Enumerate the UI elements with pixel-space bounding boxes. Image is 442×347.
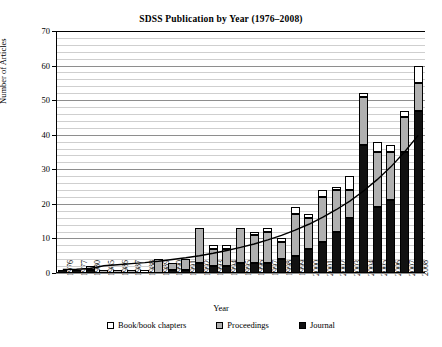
legend-label: Journal (310, 320, 335, 330)
gridline-major (56, 273, 425, 274)
legend-item: Journal (299, 320, 335, 330)
y-tick-label: 30 (24, 164, 50, 174)
plot-area (56, 31, 425, 273)
y-tick-label: 60 (24, 61, 50, 71)
y-axis-label: Number of Articles (0, 38, 8, 104)
legend-swatch-book (107, 322, 114, 329)
legend-label: Proceedings (227, 320, 269, 330)
y-tick-label: 70 (24, 26, 50, 36)
chart-container: SDSS Publication by Year (1976–2008) Num… (0, 0, 442, 347)
legend-label: Book/book chapters (118, 320, 186, 330)
trend-line (56, 31, 425, 273)
y-tick-label: 50 (24, 95, 50, 105)
x-axis-label: Year (0, 303, 442, 313)
chart-title: SDSS Publication by Year (1976–2008) (0, 14, 442, 24)
chart-legend: Book/book chaptersProceedingsJournal (0, 320, 442, 330)
legend-swatch-proceedings (216, 322, 223, 329)
y-tick-label: 20 (24, 199, 50, 209)
y-tick-label: 0 (24, 268, 50, 278)
legend-swatch-journal (299, 322, 306, 329)
y-tick-label: 10 (24, 233, 50, 243)
y-tick-label: 40 (24, 130, 50, 140)
legend-item: Book/book chapters (107, 320, 186, 330)
legend-item: Proceedings (216, 320, 269, 330)
